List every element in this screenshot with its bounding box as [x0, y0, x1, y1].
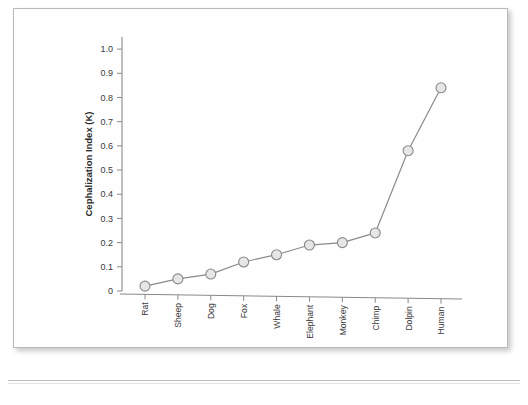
- y-axis-tick-label: 0.1: [100, 262, 113, 272]
- x-axis-category-label: Dolpin: [404, 306, 414, 331]
- data-point-marker: [436, 83, 446, 93]
- x-axis-category-label: Sheep: [173, 303, 183, 328]
- data-point-marker: [272, 250, 282, 260]
- data-point-marker: [370, 228, 380, 238]
- y-axis-tick-label: 0.4: [100, 189, 113, 199]
- x-axis-category-label: Rat: [140, 302, 150, 316]
- data-point-marker: [403, 146, 413, 156]
- y-axis-tick-label: 0.8: [100, 93, 113, 103]
- page-bottom-rule: [8, 380, 520, 381]
- y-axis-tick-label: 0.7: [100, 117, 113, 127]
- data-point-marker: [304, 240, 314, 250]
- x-axis-category-labels: RatSheepDogFoxWhaleElephantMonkeyChimpDo…: [140, 302, 446, 339]
- page-bottom-rule-secondary: [8, 383, 520, 384]
- data-point-markers: [140, 83, 446, 291]
- y-axis-tick-label: 0.2: [100, 238, 113, 248]
- y-axis-tick-label: 0.3: [100, 214, 113, 224]
- y-axis-tick-label: 0.9: [100, 68, 113, 78]
- y-axis-tick-label: 0: [108, 286, 113, 296]
- x-axis-line: [120, 294, 462, 299]
- x-axis-category-label: Chimp: [371, 306, 381, 331]
- x-axis-category-label: Elephant: [305, 304, 315, 339]
- chart-figure: 00.10.20.30.40.50.60.70.80.91.0 Cephaliz…: [14, 9, 509, 349]
- y-axis-tick-label: 1.0: [100, 44, 113, 54]
- y-axis-ticks: 00.10.20.30.40.50.60.70.80.91.0: [100, 44, 122, 296]
- x-axis-category-label: Whale: [272, 304, 282, 329]
- data-point-marker: [206, 269, 216, 279]
- cephalization-index-line-chart: 00.10.20.30.40.50.60.70.80.91.0 Cephaliz…: [14, 9, 509, 349]
- x-axis-ticks: [145, 294, 441, 303]
- x-axis-category-label: Monkey: [338, 305, 348, 336]
- scanned-page-sheet: 00.10.20.30.40.50.60.70.80.91.0 Cephaliz…: [13, 8, 508, 348]
- x-axis-category-label: Fox: [239, 303, 249, 318]
- data-line: [145, 88, 441, 286]
- x-axis-category-label: Human: [436, 306, 446, 334]
- data-point-marker: [239, 257, 249, 267]
- data-point-marker: [173, 274, 183, 284]
- y-axis-tick-label: 0.6: [100, 141, 113, 151]
- data-point-marker: [337, 238, 347, 248]
- y-axis-title: Cephalization Index (K): [83, 111, 94, 216]
- x-axis-category-label: Dog: [206, 303, 216, 319]
- y-axis-tick-label: 0.5: [100, 165, 113, 175]
- data-point-marker: [140, 281, 150, 291]
